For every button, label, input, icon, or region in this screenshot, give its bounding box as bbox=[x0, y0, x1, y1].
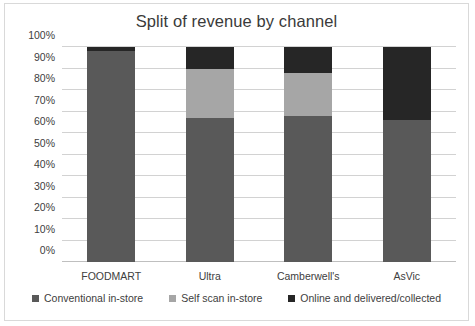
legend-item[interactable]: Conventional in-store bbox=[32, 292, 143, 304]
y-axis-tick-label: 0% bbox=[40, 244, 55, 256]
chart-title: Split of revenue by channel bbox=[5, 12, 468, 31]
y-axis-tick-label: 100% bbox=[28, 29, 55, 41]
chart-legend: Conventional in-storeSelf scan in-storeO… bbox=[5, 292, 468, 304]
x-axis-tick-label: AsVic bbox=[393, 270, 420, 282]
stacked-bar[interactable] bbox=[87, 47, 135, 262]
bar-segment[interactable] bbox=[186, 47, 234, 69]
y-axis-tick-label: 40% bbox=[34, 158, 55, 170]
bar-segment[interactable] bbox=[87, 51, 135, 262]
bar-group[interactable]: FOODMART bbox=[87, 47, 135, 262]
y-axis-tick-label: 20% bbox=[34, 201, 55, 213]
bar-group[interactable]: AsVic bbox=[383, 47, 431, 262]
y-axis-tick-label: 10% bbox=[34, 223, 55, 235]
legend-item[interactable]: Self scan in-store bbox=[169, 292, 262, 304]
legend-label: Online and delivered/collected bbox=[300, 292, 441, 304]
bar-group[interactable]: Camberwell's bbox=[284, 47, 332, 262]
bar-segment[interactable] bbox=[186, 118, 234, 262]
bar-segment[interactable] bbox=[186, 69, 234, 118]
y-axis-tick-label: 60% bbox=[34, 115, 55, 127]
legend-swatch-icon bbox=[288, 295, 295, 302]
bar-segment[interactable] bbox=[284, 116, 332, 262]
plot-area: 0%10%20%30%40%50%60%70%80%90%100%FOODMAR… bbox=[62, 47, 456, 262]
bar-segment[interactable] bbox=[284, 47, 332, 73]
x-axis-tick-label: Ultra bbox=[199, 270, 221, 282]
bar-segment[interactable] bbox=[87, 47, 135, 51]
bar-segment[interactable] bbox=[284, 73, 332, 116]
bar-segment[interactable] bbox=[383, 47, 431, 120]
bar-group[interactable]: Ultra bbox=[186, 47, 234, 262]
legend-label: Self scan in-store bbox=[181, 292, 262, 304]
legend-swatch-icon bbox=[32, 295, 39, 302]
y-axis-tick-label: 70% bbox=[34, 94, 55, 106]
x-axis-tick-label: FOODMART bbox=[81, 270, 141, 282]
y-axis-tick-label: 30% bbox=[34, 180, 55, 192]
x-axis-tick-label: Camberwell's bbox=[277, 270, 340, 282]
stacked-bar[interactable] bbox=[284, 47, 332, 262]
legend-item[interactable]: Online and delivered/collected bbox=[288, 292, 441, 304]
y-axis-tick-label: 50% bbox=[34, 137, 55, 149]
y-axis-tick-label: 80% bbox=[34, 72, 55, 84]
stacked-bar[interactable] bbox=[186, 47, 234, 262]
bar-segment[interactable] bbox=[383, 120, 431, 262]
y-axis-tick-label: 90% bbox=[34, 51, 55, 63]
chart-container: Split of revenue by channel 0%10%20%30%4… bbox=[4, 3, 469, 321]
legend-swatch-icon bbox=[169, 295, 176, 302]
stacked-bar[interactable] bbox=[383, 47, 431, 262]
legend-label: Conventional in-store bbox=[44, 292, 143, 304]
